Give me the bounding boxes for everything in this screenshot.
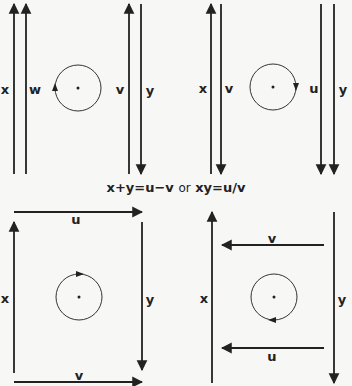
label-u: u: [71, 213, 80, 226]
rotation-arrowhead: [268, 317, 276, 323]
equation-product: xy=u/v: [195, 180, 245, 195]
label-y: y: [146, 293, 154, 306]
caption-or: or: [178, 181, 190, 195]
rotation-arrowhead: [76, 271, 84, 277]
label-y: y: [339, 83, 347, 96]
label-u: u: [267, 350, 276, 363]
label-v: v: [75, 369, 83, 382]
equation-sum: x+y=u−v: [107, 180, 174, 195]
label-x: x: [1, 292, 9, 305]
label-v: v: [268, 232, 276, 245]
rotation-arrowhead: [293, 83, 299, 91]
label-x: x: [1, 83, 9, 96]
label-x: x: [200, 292, 208, 305]
label-w: w: [29, 83, 41, 96]
label-y: y: [338, 293, 346, 306]
label-v: v: [116, 83, 124, 96]
label-v: v: [225, 82, 233, 95]
rotation-arrowhead: [52, 83, 58, 91]
label-y: y: [146, 84, 154, 97]
label-u: u: [309, 82, 318, 95]
caption: x+y=u−v or xy=u/v: [0, 180, 352, 195]
label-x: x: [199, 82, 207, 95]
